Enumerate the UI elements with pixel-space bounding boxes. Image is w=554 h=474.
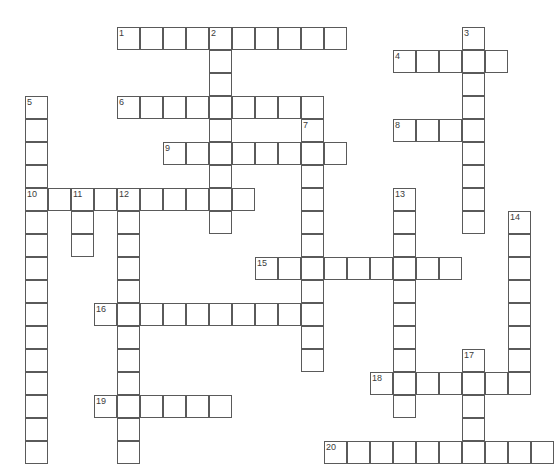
grid-cell[interactable] — [301, 165, 324, 188]
grid-cell[interactable] — [462, 142, 485, 165]
grid-cell[interactable] — [485, 372, 508, 395]
grid-cell[interactable] — [232, 27, 255, 50]
grid-cell[interactable] — [301, 349, 324, 372]
grid-cell[interactable] — [485, 50, 508, 73]
grid-cell[interactable] — [370, 441, 393, 464]
grid-cell[interactable] — [209, 188, 232, 211]
grid-cell[interactable] — [25, 234, 48, 257]
grid-cell[interactable] — [462, 73, 485, 96]
grid-cell[interactable]: 4 — [393, 50, 416, 73]
grid-cell[interactable]: 1 — [117, 27, 140, 50]
grid-cell[interactable] — [370, 257, 393, 280]
grid-cell[interactable]: 10 — [25, 188, 48, 211]
grid-cell[interactable] — [117, 211, 140, 234]
grid-cell[interactable] — [301, 234, 324, 257]
grid-cell[interactable]: 6 — [117, 96, 140, 119]
grid-cell[interactable] — [301, 326, 324, 349]
grid-cell[interactable] — [393, 326, 416, 349]
grid-cell[interactable] — [163, 303, 186, 326]
grid-cell[interactable] — [117, 257, 140, 280]
grid-cell[interactable]: 17 — [462, 349, 485, 372]
grid-cell[interactable] — [278, 27, 301, 50]
grid-cell[interactable] — [186, 96, 209, 119]
grid-cell[interactable] — [25, 418, 48, 441]
grid-cell[interactable] — [462, 211, 485, 234]
grid-cell[interactable] — [508, 326, 531, 349]
grid-cell[interactable] — [48, 188, 71, 211]
grid-cell[interactable] — [462, 50, 485, 73]
grid-cell[interactable] — [462, 165, 485, 188]
grid-cell[interactable] — [186, 395, 209, 418]
grid-cell[interactable] — [393, 372, 416, 395]
grid-cell[interactable] — [416, 257, 439, 280]
grid-cell[interactable] — [301, 27, 324, 50]
grid-cell[interactable] — [531, 441, 554, 464]
grid-cell[interactable] — [347, 441, 370, 464]
grid-cell[interactable] — [186, 303, 209, 326]
grid-cell[interactable]: 13 — [393, 188, 416, 211]
grid-cell[interactable] — [485, 441, 508, 464]
grid-cell[interactable] — [393, 211, 416, 234]
grid-cell[interactable] — [25, 165, 48, 188]
grid-cell[interactable] — [25, 257, 48, 280]
grid-cell[interactable] — [278, 257, 301, 280]
grid-cell[interactable]: 19 — [94, 395, 117, 418]
grid-cell[interactable] — [301, 96, 324, 119]
grid-cell[interactable] — [255, 96, 278, 119]
grid-cell[interactable] — [347, 257, 370, 280]
grid-cell[interactable] — [393, 257, 416, 280]
grid-cell[interactable]: 9 — [163, 142, 186, 165]
grid-cell[interactable] — [301, 211, 324, 234]
grid-cell[interactable] — [163, 188, 186, 211]
grid-cell[interactable] — [462, 418, 485, 441]
grid-cell[interactable] — [209, 303, 232, 326]
grid-cell[interactable] — [140, 303, 163, 326]
grid-cell[interactable] — [508, 349, 531, 372]
grid-cell[interactable] — [508, 372, 531, 395]
grid-cell[interactable] — [117, 372, 140, 395]
grid-cell[interactable]: 7 — [301, 119, 324, 142]
grid-cell[interactable] — [508, 234, 531, 257]
grid-cell[interactable] — [301, 257, 324, 280]
grid-cell[interactable] — [140, 395, 163, 418]
grid-cell[interactable] — [439, 119, 462, 142]
grid-cell[interactable] — [117, 280, 140, 303]
grid-cell[interactable] — [209, 73, 232, 96]
grid-cell[interactable] — [439, 441, 462, 464]
grid-cell[interactable] — [25, 142, 48, 165]
grid-cell[interactable] — [209, 50, 232, 73]
grid-cell[interactable] — [117, 326, 140, 349]
grid-cell[interactable] — [301, 303, 324, 326]
grid-cell[interactable] — [508, 303, 531, 326]
grid-cell[interactable] — [25, 119, 48, 142]
grid-cell[interactable] — [140, 27, 163, 50]
grid-cell[interactable] — [209, 119, 232, 142]
grid-cell[interactable] — [416, 441, 439, 464]
grid-cell[interactable]: 15 — [255, 257, 278, 280]
grid-cell[interactable] — [416, 119, 439, 142]
grid-cell[interactable] — [439, 50, 462, 73]
grid-cell[interactable] — [462, 188, 485, 211]
grid-cell[interactable]: 14 — [508, 211, 531, 234]
grid-cell[interactable] — [25, 349, 48, 372]
grid-cell[interactable] — [232, 303, 255, 326]
grid-cell[interactable] — [393, 395, 416, 418]
grid-cell[interactable] — [71, 234, 94, 257]
grid-cell[interactable] — [140, 96, 163, 119]
grid-cell[interactable] — [25, 372, 48, 395]
grid-cell[interactable] — [462, 395, 485, 418]
grid-cell[interactable] — [393, 303, 416, 326]
grid-cell[interactable] — [462, 441, 485, 464]
grid-cell[interactable] — [25, 280, 48, 303]
grid-cell[interactable] — [209, 96, 232, 119]
grid-cell[interactable] — [393, 349, 416, 372]
grid-cell[interactable]: 5 — [25, 96, 48, 119]
grid-cell[interactable] — [117, 234, 140, 257]
grid-cell[interactable]: 2 — [209, 27, 232, 50]
grid-cell[interactable]: 16 — [94, 303, 117, 326]
grid-cell[interactable] — [508, 257, 531, 280]
grid-cell[interactable]: 8 — [393, 119, 416, 142]
grid-cell[interactable] — [301, 280, 324, 303]
grid-cell[interactable] — [117, 418, 140, 441]
grid-cell[interactable] — [393, 441, 416, 464]
